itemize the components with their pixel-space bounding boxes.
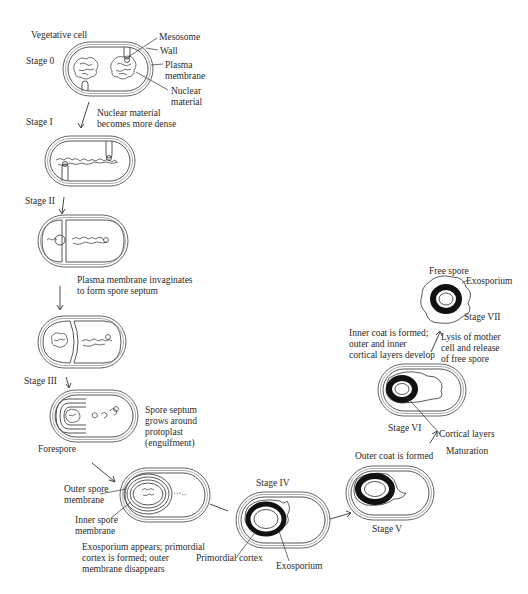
forespore-label: Forespore [38,444,76,455]
stage-4a-cell [120,468,210,522]
stage-5-label: Stage V [372,524,402,535]
stage-1-label: Stage I [26,117,53,128]
stage-6-description: Inner coat is formed; outer and inner co… [349,328,435,361]
stage-7-description: Lysis of mother cell and release of free… [441,332,501,365]
stage-3-description: Spore septum grows around protoplast (en… [145,405,197,449]
exosporium-iv-label: Exosporium [276,561,322,572]
nuclear-material-label: Nuclear material [171,86,202,108]
wall-label: Wall [160,46,178,57]
stage-7-label: Stage VII [464,312,501,323]
stage-4-cell [236,492,330,548]
stage-6-label: Stage VI [388,423,421,434]
stage-2-description: Plasma membrane invaginates to form spor… [77,275,193,297]
stage-0-cell [63,42,153,96]
plasma-membrane-label: Plasma membrane [165,60,205,82]
stage-4-description: Exosporium appears; primordial cortex is… [82,542,205,575]
stage-2-cell [38,215,128,267]
stage-3b-cell [50,390,138,442]
mesosome-label: Mesosome [159,32,200,43]
maturation-label: Maturation [446,446,488,457]
stage-5-cell [346,466,434,520]
stage-2-label: Stage II [25,196,55,207]
stage-3a-cell [38,316,126,368]
stage-1-description: Nuclear material becomes more dense [97,108,176,130]
stage-0-label: Stage 0 [26,56,54,67]
free-spore-label: Free spore [429,266,469,277]
stage-5-description: Outer coat is formed [355,451,433,462]
stage-1-cell [45,136,135,186]
outer-spore-membrane-label: Outer spore membrane [64,484,109,506]
stage-6-cell [378,364,466,416]
stage-4-label: Stage IV [256,478,290,489]
cortical-layers-label: Cortical layers [439,429,495,440]
exosporium-vii-label: Exosporium [466,276,512,287]
vegetative-cell-label: Vegetative cell [31,30,87,41]
primordial-cortex-label: Primordial cortex [196,553,263,564]
inner-spore-membrane-label: Inner spore membrane [75,515,118,537]
stage-3-label: Stage III [24,376,57,387]
